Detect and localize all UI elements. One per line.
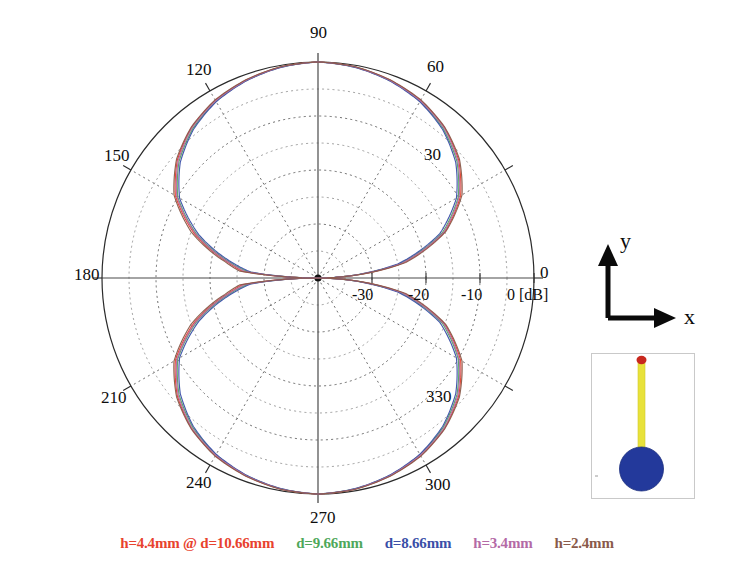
angle-label-90: 90 <box>310 24 327 41</box>
angle-label-150: 150 <box>104 147 130 164</box>
angle-label-270: 270 <box>310 509 336 526</box>
angle-label-0: 0 <box>540 264 549 281</box>
polar-plot: 0 30 60 90 120 150 180 210 240 270 300 3… <box>0 0 580 520</box>
legend-item-1: d=9.66mm <box>296 535 363 552</box>
monopole-antenna-icon <box>592 354 692 496</box>
legend-item-0: h=4.4mm @ d=10.66mm <box>120 535 274 552</box>
antenna-geometry-inset <box>591 353 695 499</box>
angle-label-60: 60 <box>427 58 444 75</box>
radial-label-minus10: -10 <box>461 287 482 303</box>
legend: h=4.4mm @ d=10.66mm d=9.66mm d=8.66mm h=… <box>0 528 734 558</box>
legend-item-2: d=8.66mm <box>385 535 452 552</box>
polar-plot-canvas <box>0 0 580 520</box>
angle-label-210: 210 <box>101 389 127 406</box>
angle-label-240: 240 <box>186 474 212 491</box>
axis-label-x: x <box>684 304 695 330</box>
coordinate-axes-inset: y x <box>592 232 722 332</box>
radial-label-0db: 0 [dB] <box>507 287 548 303</box>
legend-item-4: h=2.4mm <box>554 535 613 552</box>
angle-label-330: 330 <box>426 388 452 405</box>
legend-item-3: h=3.4mm <box>473 535 532 552</box>
angle-label-180: 180 <box>74 266 100 283</box>
angle-label-30: 30 <box>424 146 441 163</box>
angle-label-120: 120 <box>186 61 212 78</box>
axis-label-y: y <box>620 228 631 254</box>
radiation-pattern-figure: 0 30 60 90 120 150 180 210 240 270 300 3… <box>0 0 734 579</box>
axes-arrows-icon <box>592 232 722 332</box>
radial-label-minus20: -20 <box>408 287 429 303</box>
radial-label-minus30: -30 <box>352 287 373 303</box>
angle-label-300: 300 <box>425 476 451 493</box>
